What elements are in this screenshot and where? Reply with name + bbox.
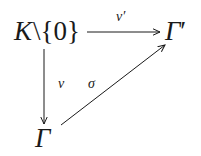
node-target-top: Γ′ (165, 18, 186, 45)
node-target-top-base: Γ (165, 16, 180, 46)
label-top-arrow: v′ (116, 10, 125, 24)
label-diagonal-arrow: σ (88, 77, 95, 91)
label-left-arrow: v (58, 77, 64, 91)
set-minus-symbol: \ (33, 16, 41, 46)
node-source: K\{0} (14, 18, 80, 45)
prime-symbol: ′ (180, 16, 186, 46)
node-source-base: K (14, 16, 32, 46)
node-target-bottom-base: Γ (35, 123, 50, 153)
node-source-set: {0} (41, 16, 80, 46)
arrow-diagonal (61, 45, 165, 125)
node-target-bottom: Γ (35, 125, 50, 152)
